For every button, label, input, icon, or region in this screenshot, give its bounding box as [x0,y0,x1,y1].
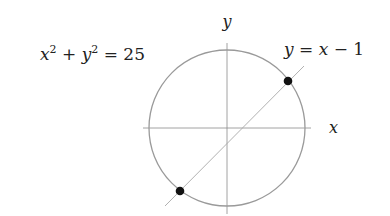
line-equation-label: y = x − 1 [283,39,364,59]
x-axis-label: x [329,118,338,137]
intersection-point-lower [176,187,185,196]
intersection-point-upper [284,77,293,86]
circle-equation-label: x2 + y2 = 25 [40,43,145,64]
circle-line-diagram: y x x2 + y2 = 25 y = x − 1 [0,0,390,216]
line-curve [165,66,304,206]
y-axis-label: y [221,12,232,31]
